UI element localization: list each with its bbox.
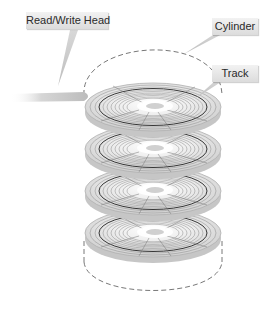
cylinder-pointer (184, 33, 224, 54)
track-label: Track (212, 65, 258, 82)
read-write-head-arm (10, 92, 88, 102)
cylinder-label: Cylinder (212, 18, 258, 35)
platter-1 (85, 83, 221, 137)
read-write-head-pointer (58, 30, 78, 86)
disk-diagram (0, 0, 278, 309)
read-write-head-label: Read/Write Head (26, 12, 108, 29)
